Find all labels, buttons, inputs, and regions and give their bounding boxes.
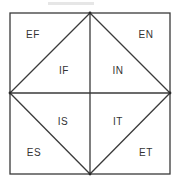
diamond-edge-bottom-left [10, 93, 90, 174]
label-is: IS [58, 116, 68, 127]
vertex-left [9, 92, 12, 95]
diamond-edge-bottom-right [90, 93, 170, 174]
vertex-top [89, 12, 92, 15]
label-in: IN [113, 65, 124, 76]
vertex-right [169, 92, 172, 95]
label-es: ES [27, 147, 41, 158]
cropped-text-remnant [48, 2, 94, 5]
diamond-edge-top-right [90, 13, 170, 93]
label-ef: EF [26, 29, 40, 40]
quadrant-diagram: EF EN IF IN IS IT ES ET [0, 0, 174, 184]
label-et: ET [139, 147, 153, 158]
label-it: IT [113, 116, 123, 127]
diamond-edge-top-left [10, 13, 90, 93]
vertex-bottom [89, 173, 92, 176]
label-en: EN [139, 29, 154, 40]
label-if: IF [59, 65, 69, 76]
